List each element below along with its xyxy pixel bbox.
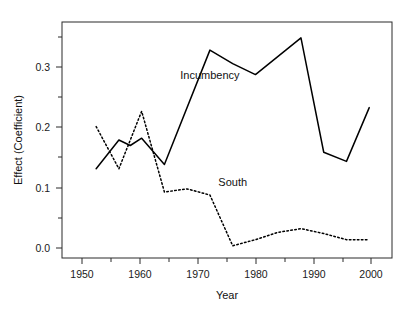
x-tick-label-1950: 1950 [70, 268, 94, 280]
series-annotation-incumbency: Incumbency [180, 69, 240, 81]
x-axis-minor-ticks [111, 258, 343, 262]
x-tick-label-1960: 1960 [128, 268, 152, 280]
x-tick-label-1980: 1980 [244, 268, 268, 280]
y-tick-label-0.1: 0.1 [35, 182, 50, 194]
y-tick-label-0.3: 0.3 [35, 61, 50, 73]
y-tick-label-0.2: 0.2 [35, 121, 50, 133]
series-annotation-south: South [218, 176, 247, 188]
x-axis-title: Year [216, 289, 239, 301]
x-tick-label-1990: 1990 [302, 268, 326, 280]
y-axis-title: Effect (Coefficient) [12, 95, 24, 185]
x-tick-label-2000: 2000 [359, 268, 383, 280]
y-tick-label-0.0: 0.0 [35, 242, 50, 254]
plot-area-border [62, 22, 392, 258]
line-chart-svg: 0.3 0.2 0.1 0.0 1950 1960 1970 1980 1990… [0, 0, 420, 316]
x-tick-label-1970: 1970 [186, 268, 210, 280]
chart-figure: 0.3 0.2 0.1 0.0 1950 1960 1970 1980 1990… [0, 0, 420, 316]
